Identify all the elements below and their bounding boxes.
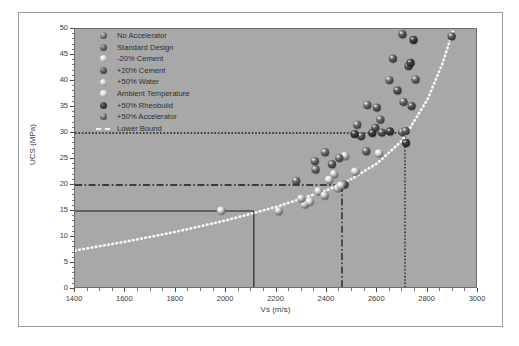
legend-item-label: +50% Accelerator [110,111,177,123]
data-point[interactable] [274,207,282,215]
data-point-highlight [313,167,316,169]
legend-item[interactable]: Lower Bound [96,123,266,135]
legend-line-icon [96,128,110,130]
legend-item[interactable]: No Accelerator [96,30,266,42]
legend-item[interactable]: Standard Design [96,42,266,54]
x-tickmark-minor [187,288,188,291]
y-tick-label: 25 [34,153,68,162]
data-point[interactable] [375,149,383,157]
x-tickmark-minor [364,288,365,291]
sphere-marker-icon [100,67,107,74]
data-point[interactable] [292,177,300,185]
data-point[interactable] [406,59,414,67]
data-point-highlight [343,153,346,155]
legend-sphere-icon [96,102,110,109]
data-point[interactable] [335,154,343,162]
x-tickmark-major [376,288,377,292]
data-point-highlight [307,199,310,201]
data-point-highlight [353,169,356,171]
data-point[interactable] [351,167,359,175]
data-point-highlight [403,128,406,130]
data-point[interactable] [409,36,417,44]
data-point[interactable] [393,86,401,94]
x-tickmark-minor [414,288,415,291]
legend-item[interactable]: Ambient Temperature [96,88,266,100]
chart-legend: No AcceleratorStandard Design-20% Cement… [96,30,266,134]
data-point[interactable] [398,30,406,38]
legend-sphere-icon [96,44,110,51]
data-point[interactable] [407,102,415,110]
x-tickmark-minor [439,288,440,291]
legend-item[interactable]: +50% Accelerator [96,111,266,123]
sphere-marker-icon [100,90,107,97]
x-tickmark-minor [401,288,402,291]
data-point[interactable] [362,147,370,155]
data-point-highlight [408,60,411,62]
legend-item-label: No Accelerator [110,30,167,42]
data-point[interactable] [411,75,419,83]
data-point[interactable] [399,98,407,106]
legend-item-label: +50% Rheobuild [110,100,173,112]
data-point-highlight [337,156,340,158]
data-point-highlight [299,196,302,198]
data-point[interactable] [353,121,361,129]
data-point-highlight [331,172,334,174]
data-point[interactable] [311,157,319,165]
x-tickmark-minor [150,288,151,291]
x-tickmark-minor [301,288,302,291]
data-point[interactable] [311,165,319,173]
data-point[interactable] [337,181,345,189]
data-point[interactable] [373,103,381,111]
data-point[interactable] [351,130,359,138]
legend-item[interactable]: +50% Water [96,76,266,88]
data-point[interactable] [448,32,456,40]
x-tickmark-minor [250,288,251,291]
data-point[interactable] [305,198,313,206]
y-tick-label: 20 [34,179,68,188]
data-point[interactable] [376,115,384,123]
data-point-highlight [387,78,390,80]
data-point-highlight [364,149,367,151]
data-point-highlight [390,56,393,58]
legend-item[interactable]: +20% Cement [96,65,266,77]
x-tickmark-minor [162,288,163,291]
y-axis-title: UCS (MPa) [28,105,37,185]
x-tickmark-major [225,288,226,292]
data-point[interactable] [297,194,305,202]
x-tickmark-major [175,288,176,292]
x-tick-label: 2400 [306,294,346,303]
data-point-highlight [312,159,315,161]
data-point[interactable] [368,129,376,137]
data-point-highlight [322,150,325,152]
data-point[interactable] [389,55,397,63]
legend-item[interactable]: -20% Cement [96,53,266,65]
data-point[interactable] [217,206,225,214]
data-point[interactable] [402,139,410,147]
data-point[interactable] [386,127,394,135]
legend-item-label: +20% Cement [110,65,165,77]
data-point[interactable] [363,101,371,109]
data-point-highlight [387,129,390,131]
legend-item-label: +50% Water [110,76,159,88]
legend-sphere-icon [96,79,110,86]
legend-item-label: Standard Design [110,42,174,54]
data-point-highlight [365,102,368,104]
sphere-marker-icon [100,55,107,62]
x-tickmark-major [477,288,478,292]
x-tick-label: 2600 [356,294,396,303]
data-point-highlight [374,105,377,107]
data-point[interactable] [328,160,336,168]
data-point[interactable] [385,76,393,84]
data-point-highlight [219,208,222,210]
data-point[interactable] [325,176,333,184]
legend-item[interactable]: +50% Rheobuild [96,100,266,112]
data-point[interactable] [401,127,409,135]
x-tickmark-major [427,288,428,292]
data-point-highlight [404,140,407,142]
data-point[interactable] [378,128,386,136]
data-point[interactable] [320,191,328,199]
data-point-highlight [449,34,452,36]
legend-sphere-icon [96,113,110,120]
dashed-line-icon [96,128,110,130]
data-point[interactable] [321,148,329,156]
